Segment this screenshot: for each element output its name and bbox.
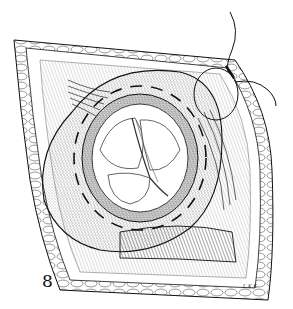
- artist-initials: L.K.K.: [243, 283, 259, 289]
- figure-number: 8: [42, 271, 53, 291]
- surgical-illustration: [0, 0, 293, 309]
